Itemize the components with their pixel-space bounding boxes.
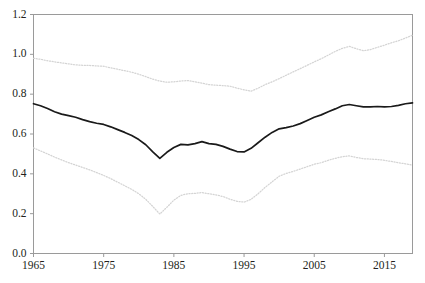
- data-series-layer: [34, 35, 413, 214]
- plot-frame: [34, 15, 413, 254]
- axis-frame: [34, 15, 413, 254]
- y-axis-label-6: 1.2: [0, 9, 27, 21]
- x-axis-label-5: 2015: [359, 260, 409, 272]
- x-axis-label-3: 1995: [219, 260, 269, 272]
- y-axis-label-2: 0.4: [0, 168, 27, 180]
- chart-container: 0.00.20.40.60.81.01.2 196519751985199520…: [0, 0, 425, 283]
- x-axis-label-1: 1975: [79, 260, 129, 272]
- chart-plot-svg: [0, 0, 425, 283]
- y-axis-label-1: 0.2: [0, 208, 27, 220]
- series-line-central-estimate: [34, 103, 413, 158]
- y-axis-label-0: 0.0: [0, 248, 27, 260]
- y-axis-label-3: 0.6: [0, 128, 27, 140]
- x-axis-label-0: 1965: [9, 260, 59, 272]
- y-axis-label-4: 0.8: [0, 88, 27, 100]
- y-axis-label-5: 1.0: [0, 48, 27, 60]
- x-axis-label-4: 2005: [289, 260, 339, 272]
- series-line-lower-bound: [34, 148, 413, 214]
- axis-tick-marks: [30, 15, 384, 258]
- x-axis-label-2: 1985: [149, 260, 199, 272]
- series-line-upper-bound: [34, 35, 413, 91]
